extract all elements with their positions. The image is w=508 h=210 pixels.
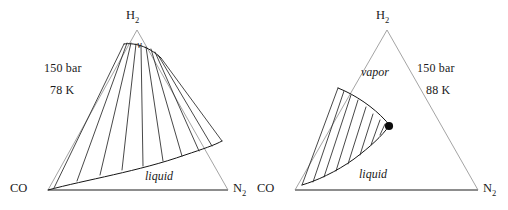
vapor-region-label-left: v: [137, 40, 142, 51]
liquid-boundary-left: [48, 141, 222, 190]
vertex-label-h2-right: H2: [376, 9, 389, 24]
pressure-label-left: 150 bar: [44, 62, 82, 74]
phase-diagram-panel-right: H2 CO N2 150 bar 88 K vapor liquid: [254, 0, 508, 210]
vapor-boundary-right: [338, 88, 389, 126]
temperature-label-right: 88 K: [426, 84, 450, 96]
pressure-label-right: 150 bar: [417, 62, 455, 74]
vertex-label-co-right: CO: [257, 182, 274, 195]
vertex-label-co-left: CO: [10, 182, 27, 195]
temperature-label-left: 78 K: [50, 84, 74, 96]
triangle-edges-left: [48, 30, 228, 190]
liquid-region-label-right: liquid: [359, 168, 387, 180]
ternary-phase-diagram-figure: H2 CO N2 150 bar 78 K v liquid: [0, 0, 508, 210]
vertex-label-h2-left: H2: [126, 9, 139, 24]
vertex-label-n2-right: N2: [483, 182, 496, 197]
ternary-triangle-left: [0, 0, 254, 210]
liquid-region-label-left: liquid: [145, 170, 173, 182]
vertex-label-n2-left: N2: [233, 182, 246, 197]
triangle-edges-right: [295, 30, 478, 190]
vapor-region-label-right: vapor: [361, 66, 389, 78]
phase-diagram-panel-left: H2 CO N2 150 bar 78 K v liquid: [0, 0, 254, 210]
critical-point-marker-right: [385, 122, 393, 130]
